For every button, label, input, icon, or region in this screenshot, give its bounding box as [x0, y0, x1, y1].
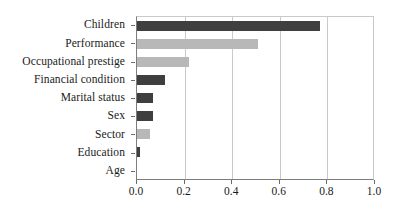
y-axis-label-text: Age	[106, 165, 125, 177]
y-axis-label-cell: Performance	[0, 34, 130, 52]
y-axis-label-cell: Education	[0, 144, 130, 162]
y-axis-tick	[131, 171, 135, 172]
bar-row	[137, 143, 373, 161]
y-axis-tick	[131, 62, 135, 63]
y-axis-label-text: Marital status	[61, 92, 125, 104]
x-axis-tick	[279, 180, 280, 184]
x-axis-tick	[184, 180, 185, 184]
y-axis-label-cell: Children	[0, 16, 130, 34]
bar-row	[137, 17, 373, 35]
y-axis-label-text: Children	[84, 19, 125, 31]
x-axis-tick	[374, 180, 375, 184]
y-axis-tick	[131, 134, 135, 135]
y-axis-label-text: Financial condition	[34, 74, 125, 86]
x-axis-labels: 0.00.20.40.60.81.0	[136, 186, 374, 204]
y-axis-tick	[131, 80, 135, 81]
y-axis-label-cell: Financial condition	[0, 71, 130, 89]
bar-row	[137, 53, 373, 71]
x-axis-tick-label: 1.0	[367, 186, 381, 198]
plot-area	[136, 16, 374, 180]
bar	[137, 147, 140, 157]
y-axis-label-cell: Marital status	[0, 89, 130, 107]
bar	[137, 111, 153, 121]
bar-row	[137, 71, 373, 89]
bar	[137, 21, 320, 31]
y-axis-label-text: Occupational prestige	[22, 56, 125, 68]
y-axis-label-cell: Sex	[0, 107, 130, 125]
x-axis-tick-label: 0.6	[272, 186, 286, 198]
bar-row	[137, 107, 373, 125]
y-axis-label-cell: Age	[0, 162, 130, 180]
y-axis-tick	[131, 98, 135, 99]
x-axis-tick-label: 0.0	[129, 186, 143, 198]
y-axis-labels: ChildrenPerformanceOccupational prestige…	[0, 16, 130, 180]
y-axis-label-text: Education	[77, 147, 125, 159]
x-axis-tick	[231, 180, 232, 184]
y-axis-tick	[131, 43, 135, 44]
x-axis-tick-label: 0.4	[224, 186, 238, 198]
y-axis-label-text: Performance	[65, 38, 125, 50]
x-axis-ticks	[136, 180, 374, 185]
bar	[137, 57, 189, 67]
bar-row	[137, 161, 373, 179]
bar-chart: ChildrenPerformanceOccupational prestige…	[0, 0, 395, 217]
y-axis-label-text: Sector	[95, 129, 125, 141]
y-axis-tick	[131, 116, 135, 117]
bar-row	[137, 89, 373, 107]
bar	[137, 39, 258, 49]
x-axis-tick-label: 0.2	[176, 186, 190, 198]
bar-row	[137, 125, 373, 143]
x-axis-tick	[136, 180, 137, 184]
y-axis-tick	[131, 153, 135, 154]
y-axis-label-cell: Occupational prestige	[0, 52, 130, 70]
y-axis-tick	[131, 25, 135, 26]
x-axis-tick	[326, 180, 327, 184]
bar	[137, 75, 165, 85]
y-axis-label-text: Sex	[107, 110, 125, 122]
bar	[137, 129, 150, 139]
y-axis-label-cell: Sector	[0, 125, 130, 143]
x-axis-tick-label: 0.8	[319, 186, 333, 198]
bars-group	[137, 17, 373, 179]
bar	[137, 93, 153, 103]
bar-row	[137, 35, 373, 53]
